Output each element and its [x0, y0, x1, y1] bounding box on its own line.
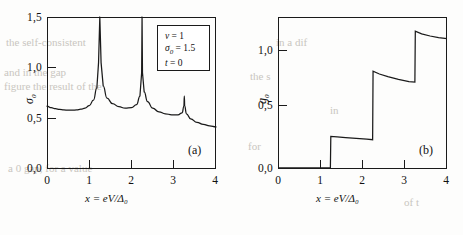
- xtick-label: 3: [163, 174, 183, 186]
- xtick-label: 4: [436, 174, 456, 186]
- panel-tag-b: (b): [419, 143, 433, 158]
- legend-box: ν = 1 σ0 = 1.5 t = 0: [157, 25, 210, 71]
- panel-a: 1,5 1,0 0,5 0,0 σ0 0 1 2 3 4 x = eV/Δ₀ (…: [0, 0, 232, 235]
- xtick-label: 1: [79, 174, 99, 186]
- x-axis-title-a: x = eV/Δ₀: [85, 192, 128, 204]
- xtick-label: 3: [394, 174, 414, 186]
- legend-line-2: σ0 = 1.5: [165, 43, 202, 58]
- xtick-label: 4: [205, 174, 225, 186]
- panel-b: 1,0 0,5 0,0 g0 0 1 2 3 4 x = eV/Δ₀ (b): [231, 0, 463, 235]
- figure-page: the self-consistent and in the gap figur…: [0, 0, 463, 235]
- x-axis-title-b: x = eV/Δ₀: [316, 192, 359, 204]
- xtick-mark: [404, 160, 405, 169]
- xtick-mark: [131, 160, 132, 169]
- xtick-label: 2: [352, 174, 372, 186]
- xtick-label: 0: [37, 174, 57, 186]
- xtick-mark: [173, 160, 174, 169]
- panel-tag-a: (a): [188, 143, 201, 158]
- xtick-label: 2: [121, 174, 141, 186]
- xtick-mark: [89, 160, 90, 169]
- xtick-label: 0: [268, 174, 288, 186]
- xtick-mark: [320, 160, 321, 169]
- xtick-label: 1: [310, 174, 330, 186]
- xtick-mark: [362, 160, 363, 169]
- legend-line-1: ν = 1: [165, 31, 202, 43]
- legend-line-3: t = 0: [165, 58, 202, 70]
